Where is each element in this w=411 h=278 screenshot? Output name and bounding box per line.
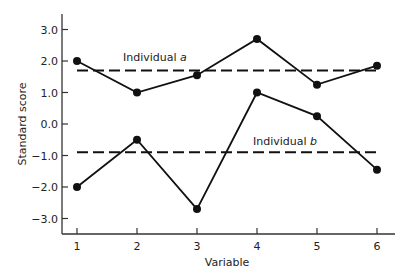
y-tick-label: −3.0 <box>31 213 58 226</box>
x-axis-ticks: 123456 <box>74 228 381 253</box>
data-point <box>373 62 381 70</box>
axes <box>62 14 395 234</box>
data-point <box>193 205 201 213</box>
y-tick-label: 3.0 <box>41 24 59 37</box>
x-tick-label: 6 <box>374 240 381 253</box>
y-tick-label: −1.0 <box>31 150 58 163</box>
x-tick-label: 1 <box>74 240 81 253</box>
y-tick-label: 2.0 <box>41 55 59 68</box>
y-tick-label: −2.0 <box>31 181 58 194</box>
data-point <box>133 89 141 97</box>
x-tick-label: 3 <box>194 240 201 253</box>
x-axis-title: Variable <box>205 256 250 269</box>
y-axis-title: Standard score <box>16 82 29 165</box>
x-tick-label: 5 <box>314 240 321 253</box>
chart: 3.02.01.00.0−1.0−2.0−3.0 123456 Individu… <box>0 0 411 278</box>
annotation-individual-a: Individual a <box>123 51 187 64</box>
data-point <box>253 89 261 97</box>
data-point <box>73 183 81 191</box>
data-point <box>313 112 321 120</box>
annotation-individual-b: Individual b <box>253 135 317 148</box>
series-lines <box>73 35 381 213</box>
data-point <box>193 71 201 79</box>
series-line-a <box>77 39 377 93</box>
data-point <box>373 166 381 174</box>
x-tick-label: 4 <box>254 240 261 253</box>
data-point <box>313 81 321 89</box>
y-tick-label: 1.0 <box>41 87 59 100</box>
annotations: Individual a Individual b <box>123 51 317 148</box>
data-point <box>253 35 261 43</box>
x-tick-label: 2 <box>134 240 141 253</box>
y-tick-label: 0.0 <box>41 118 59 131</box>
data-point <box>73 57 81 65</box>
series-line-b <box>77 93 377 210</box>
mean-lines <box>77 70 378 152</box>
data-point <box>133 136 141 144</box>
